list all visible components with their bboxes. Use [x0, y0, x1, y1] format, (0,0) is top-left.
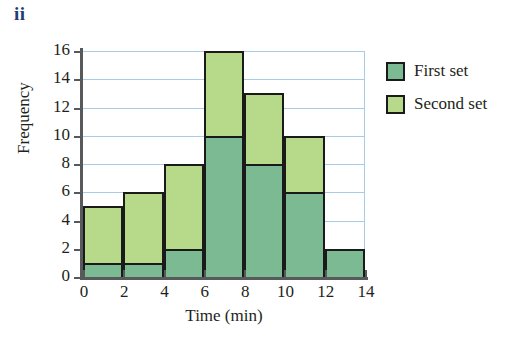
bars: [83, 51, 365, 277]
bar-segment: [325, 249, 365, 279]
x-tick-label: 6: [201, 282, 210, 302]
x-axis-title: Time (min): [82, 306, 366, 326]
figure: ii Frequency Time (min) 0246810121416 02…: [0, 0, 528, 348]
y-tick-label: 6: [40, 181, 70, 201]
x-tick-label: 14: [358, 282, 375, 302]
y-tick-label: 8: [40, 153, 70, 173]
bar-segment: [164, 164, 204, 251]
y-tick-label: 12: [40, 97, 70, 117]
plot-area: [83, 51, 365, 277]
x-tick: 12: [325, 270, 327, 279]
legend-label: Second set: [414, 94, 487, 114]
legend-swatch: [386, 62, 405, 81]
x-tick: 14: [365, 270, 367, 279]
y-tick-label: 16: [40, 40, 70, 60]
y-tick: 2: [74, 249, 83, 251]
y-tick: 12: [74, 108, 83, 110]
bar-segment: [204, 136, 244, 279]
x-tick-label: 10: [277, 282, 294, 302]
histogram-bar: [204, 51, 244, 277]
bar-segment: [244, 93, 284, 166]
y-tick-label: 4: [40, 210, 70, 230]
y-tick-label: 0: [40, 266, 70, 286]
histogram-bar: [325, 51, 365, 277]
histogram-bar: [284, 51, 324, 277]
x-tick: 6: [204, 270, 206, 279]
bar-segment: [164, 249, 204, 279]
part-label: ii: [14, 4, 26, 23]
x-tick-label: 8: [241, 282, 250, 302]
x-tick: 10: [284, 270, 286, 279]
y-tick: 16: [74, 51, 83, 53]
bar-segment: [284, 192, 324, 279]
y-tick: 8: [74, 164, 83, 166]
y-tick: 4: [74, 221, 83, 223]
bar-segment: [83, 206, 123, 265]
bar-segment: [204, 51, 244, 138]
y-tick-label: 14: [40, 68, 70, 88]
x-tick-label: 0: [80, 282, 89, 302]
x-tick-label: 12: [317, 282, 334, 302]
bar-segment: [284, 136, 324, 195]
y-tick: 6: [74, 192, 83, 194]
legend-label: First set: [414, 61, 468, 81]
legend-item: First set: [386, 60, 487, 82]
x-tick-label: 4: [160, 282, 169, 302]
histogram-bar: [83, 51, 123, 277]
x-tick: 4: [164, 270, 166, 279]
y-tick: 0: [74, 277, 83, 279]
y-tick-label: 2: [40, 238, 70, 258]
bar-segment: [123, 192, 163, 265]
legend-item: Second set: [386, 93, 487, 115]
y-axis-title: Frequency: [14, 58, 34, 178]
x-tick: 8: [244, 270, 246, 279]
bar-segment: [244, 164, 284, 279]
histogram-bar: [244, 51, 284, 277]
legend: First setSecond set: [386, 60, 487, 126]
y-tick-label: 10: [40, 125, 70, 145]
y-tick: 14: [74, 79, 83, 81]
histogram-bar: [164, 51, 204, 277]
x-tick: 2: [123, 270, 125, 279]
y-tick: 10: [74, 136, 83, 138]
x-tick-label: 2: [120, 282, 129, 302]
x-tick: 0: [83, 270, 85, 279]
histogram-bar: [123, 51, 163, 277]
legend-swatch: [386, 95, 405, 114]
